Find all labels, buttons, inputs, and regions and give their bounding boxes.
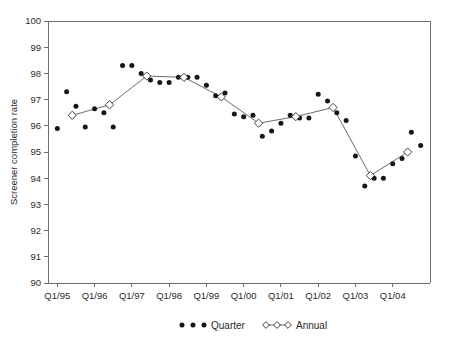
legend-label-annual: Annual <box>296 320 327 331</box>
y-tick-label: 95 <box>30 146 41 157</box>
annual-data-point: 1996: 96.8 <box>105 101 113 109</box>
x-tick-label: Q1/97 <box>119 290 145 301</box>
y-tick-label: 93 <box>30 199 41 210</box>
annual-data-point: 2004: 95 <box>404 148 412 156</box>
quarter-data-point: Q1/04: 94.55 <box>390 161 395 166</box>
x-tick-label: Q1/02 <box>305 290 331 301</box>
quarter-data-point: Q1/01: 96.1 <box>278 121 283 126</box>
y-axis-title: Screener completion rate <box>8 99 19 205</box>
quarter-data-point: Q1/99: 97.55 <box>204 83 209 88</box>
quarter-data-point: Q2/95: 97.3 <box>64 89 69 94</box>
quarter-data-point: Q2/04: 94.75 <box>400 156 405 161</box>
chart-container: 90919293949596979899100 Q1/95Q1/96Q1/97Q… <box>0 0 454 344</box>
legend-quarter-marker <box>202 323 207 328</box>
x-tick-label: Q1/01 <box>268 290 294 301</box>
x-tick-label: Q1/00 <box>231 290 257 301</box>
quarter-data-point: Q2/00: 96.4 <box>250 113 255 118</box>
quarter-data-point: Q1/00: 96.35 <box>241 114 246 119</box>
y-tick-label: 96 <box>30 120 41 131</box>
chart-legend: QuarterAnnual <box>180 320 328 331</box>
quarter-data-point: Q4/99: 96.45 <box>232 112 237 117</box>
quarter-data-point: Q4/97: 97.65 <box>157 80 162 85</box>
quarter-series-points: Q1/95: 95.9Q2/95: 97.3Q3/95: 96.75Q4/95:… <box>55 63 423 189</box>
y-tick-label: 91 <box>30 251 41 262</box>
legend-label-quarter: Quarter <box>211 320 246 331</box>
quarter-data-point: Q4/96: 98.3 <box>120 63 125 68</box>
y-axis-title-text: Screener completion rate <box>8 99 19 205</box>
x-tick-label: Q1/96 <box>82 290 108 301</box>
x-tick-label: Q1/99 <box>193 290 219 301</box>
y-axis-ticks: 90919293949596979899100 <box>25 15 48 288</box>
quarter-data-point: Q1/95: 95.9 <box>55 126 60 131</box>
quarter-data-point: Q1/03: 94.85 <box>353 153 358 158</box>
screener-completion-rate-chart: 90919293949596979899100 Q1/95Q1/96Q1/97Q… <box>0 0 454 344</box>
legend-quarter-marker <box>191 323 196 328</box>
quarter-data-point: Q3/04: 95.75 <box>409 130 414 135</box>
x-tick-label: Q1/04 <box>380 290 406 301</box>
quarter-data-point: Q3/00: 95.6 <box>260 134 265 139</box>
x-axis-ticks: Q1/95Q1/96Q1/97Q1/98Q1/99Q1/00Q1/01Q1/02… <box>44 283 405 301</box>
x-tick-label: Q1/03 <box>343 290 369 301</box>
annual-data-point: 2000: 96.1 <box>254 119 262 127</box>
annual-series-markers: 1995: 96.41996: 96.81997: 97.91998: 97.8… <box>68 72 412 180</box>
quarter-data-point: Q3/96: 95.95 <box>111 125 116 130</box>
annual-data-point: 2002: 96.7 <box>329 103 337 111</box>
quarter-data-point: Q2/02: 96.95 <box>325 98 330 103</box>
quarter-data-point: Q1/02: 97.2 <box>316 92 321 97</box>
y-tick-label: 98 <box>30 68 41 79</box>
quarter-data-point: Q4/00: 95.8 <box>269 129 274 134</box>
quarter-data-point: Q4/95: 95.95 <box>83 125 88 130</box>
quarter-data-point: Q4/98: 97.85 <box>195 75 200 80</box>
quarter-data-point: Q4/03: 94 <box>381 176 386 181</box>
quarter-data-point: Q2/03: 93.7 <box>362 184 367 189</box>
legend-annual-marker <box>263 322 270 329</box>
annual-data-point: 1998: 97.85 <box>180 73 188 81</box>
quarter-data-point: Q1/98: 97.65 <box>167 80 172 85</box>
plot-frame <box>48 21 430 283</box>
y-tick-label: 90 <box>30 277 41 288</box>
legend-annual-marker <box>285 322 292 329</box>
quarter-data-point: Q4/01: 96.3 <box>306 115 311 120</box>
quarter-data-point: Q3/95: 96.75 <box>73 104 78 109</box>
annual-series-line <box>72 76 407 176</box>
legend-annual-marker <box>274 322 281 329</box>
annual-trend-line <box>72 76 407 176</box>
y-tick-label: 99 <box>30 42 41 53</box>
x-tick-label: Q1/98 <box>156 290 182 301</box>
y-tick-label: 94 <box>30 173 41 184</box>
quarter-data-point: Q4/02: 96.2 <box>344 118 349 123</box>
quarter-data-point: Q1/96: 96.65 <box>92 106 97 111</box>
quarter-data-point: Q4/04: 95.25 <box>418 143 423 148</box>
legend-quarter-marker <box>180 323 185 328</box>
annual-data-point: 1995: 96.4 <box>68 111 76 119</box>
quarter-data-point: Q1/97: 98.3 <box>129 63 134 68</box>
y-tick-label: 97 <box>30 94 41 105</box>
quarter-data-point: Q3/02: 96.5 <box>334 110 339 115</box>
quarter-data-point: Q2/96: 96.5 <box>101 110 106 115</box>
x-tick-label: Q1/95 <box>44 290 70 301</box>
y-tick-label: 92 <box>30 225 41 236</box>
y-tick-label: 100 <box>25 15 41 26</box>
